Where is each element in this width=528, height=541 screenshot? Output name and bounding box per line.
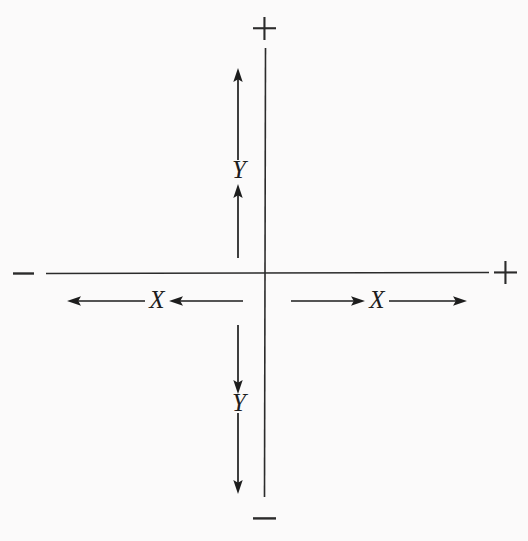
axis-group [46, 48, 489, 497]
y-lower-outer-arrow-icon [233, 413, 242, 494]
x-right-inner-arrow-icon [291, 296, 365, 305]
sign-bottom-minus-icon [253, 517, 276, 519]
axes-diagram-figure: Y Y X X [0, 0, 528, 541]
y-lower-inner-arrow-icon [233, 325, 242, 394]
label-x-positive: X [368, 286, 386, 313]
label-y-negative: Y [232, 389, 249, 416]
x-left-inner-arrow-icon [169, 296, 243, 305]
sign-right-plus-icon [494, 261, 517, 284]
label-x-negative: X [148, 286, 166, 313]
sign-top-plus-icon [253, 17, 276, 40]
y-axis-arrow-group [233, 68, 242, 494]
label-y-positive: Y [232, 156, 249, 183]
y-axis-line [265, 48, 266, 497]
x-right-outer-arrow-icon [389, 296, 467, 305]
sign-left-minus-icon [13, 272, 34, 274]
x-axis-line [46, 273, 489, 274]
x-axis-arrow-group [67, 296, 467, 305]
axes-diagram-canvas: Y Y X X [0, 0, 528, 541]
y-upper-inner-arrow-icon [233, 184, 242, 258]
axis-label-group: Y Y X X [148, 156, 386, 416]
y-upper-outer-arrow-icon [233, 68, 242, 160]
x-left-outer-arrow-icon [67, 296, 145, 305]
